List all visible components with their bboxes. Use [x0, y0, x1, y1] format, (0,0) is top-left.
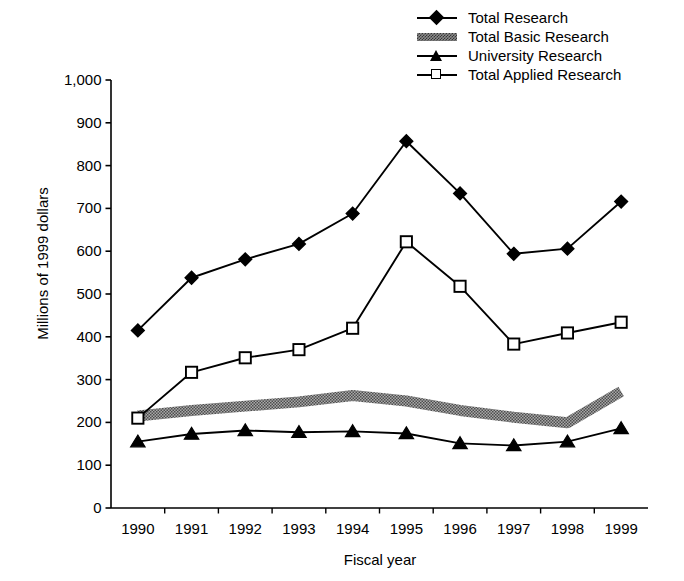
data-point-diamond	[239, 253, 252, 266]
data-point-square	[562, 327, 573, 338]
y-tick-label: 0	[40, 500, 102, 515]
x-tick-label: 1996	[430, 521, 490, 536]
x-tick-label: 1993	[269, 521, 329, 536]
y-axis-ticks	[106, 80, 112, 508]
data-point-square	[401, 236, 412, 247]
data-point-square	[132, 413, 143, 424]
series-total-research	[131, 135, 627, 337]
data-point-square	[616, 317, 627, 328]
y-tick-label: 400	[40, 329, 102, 344]
x-tick-label: 1990	[108, 521, 168, 536]
y-tick-label: 600	[40, 243, 102, 258]
data-point-square	[186, 367, 197, 378]
data-point-square	[347, 323, 358, 334]
data-point-square	[240, 352, 251, 363]
y-tick-label: 500	[40, 286, 102, 301]
x-tick-label: 1991	[162, 521, 222, 536]
plot-area	[0, 0, 684, 581]
y-tick-label: 900	[40, 115, 102, 130]
y-tick-label: 1,000	[40, 72, 102, 87]
x-tick-label: 1997	[484, 521, 544, 536]
chart-figure: Total Research Total Basic Research Univ…	[0, 0, 684, 581]
y-tick-label: 100	[40, 457, 102, 472]
x-tick-label: 1998	[537, 521, 597, 536]
x-tick-label: 1995	[376, 521, 436, 536]
y-tick-label: 300	[40, 372, 102, 387]
data-point-triangle	[614, 422, 628, 434]
data-point-square	[508, 338, 519, 349]
y-tick-label: 200	[40, 414, 102, 429]
data-point-square	[293, 344, 304, 355]
x-tick-label: 1994	[323, 521, 383, 536]
series-total-basic-research	[138, 392, 621, 423]
y-tick-label: 700	[40, 200, 102, 215]
x-axis-ticks	[165, 508, 595, 514]
y-tick-label: 800	[40, 158, 102, 173]
data-point-square	[454, 281, 465, 292]
data-point-diamond	[293, 238, 306, 251]
x-tick-label: 1992	[215, 521, 275, 536]
x-tick-label: 1999	[591, 521, 651, 536]
